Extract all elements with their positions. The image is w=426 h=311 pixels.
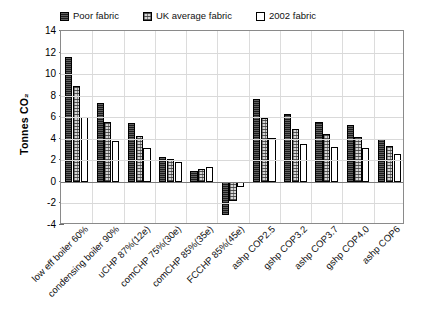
bar-group: [186, 31, 217, 223]
bar: [354, 137, 361, 182]
bar: [65, 57, 72, 182]
bar: [292, 129, 299, 182]
legend-label: 2002 fabric: [269, 11, 316, 21]
gridline: [61, 74, 403, 75]
bar-group: [342, 31, 373, 223]
y-tick-label: -2: [26, 197, 56, 208]
bar-group: [155, 31, 186, 223]
gridline: [61, 160, 403, 161]
gridline: [61, 139, 403, 140]
legend-item-1: Poor fabric: [60, 11, 119, 21]
y-tick-label: 14: [26, 25, 56, 36]
bar: [386, 146, 393, 182]
gridline: [61, 203, 403, 204]
bar: [253, 99, 260, 182]
bar: [323, 134, 330, 181]
bar: [136, 136, 143, 182]
x-axis-labels: low eff boiler 60%condensing boiler 90%u…: [0, 224, 426, 311]
bar: [347, 125, 354, 182]
gridline: [61, 117, 403, 118]
bar-group: [374, 31, 405, 223]
legend-swatch-icon: [60, 12, 69, 21]
gridline: [61, 53, 403, 54]
y-tick-label: 12: [26, 46, 56, 57]
bar: [143, 148, 150, 181]
y-tick-label: 8: [26, 89, 56, 100]
bar: [81, 117, 88, 182]
gridline: [61, 96, 403, 97]
legend-swatch-icon: [143, 12, 152, 21]
bar-group: [124, 31, 155, 223]
bars-container: [61, 31, 403, 223]
bar: [73, 86, 80, 182]
bar: [331, 147, 338, 181]
bar: [315, 122, 322, 182]
legend-item-2: UK average fabric: [143, 11, 232, 21]
bar: [362, 148, 369, 181]
bar-group: [217, 31, 248, 223]
legend-item-3: 2002 fabric: [256, 11, 316, 21]
bar-group: [280, 31, 311, 223]
bar: [229, 182, 236, 201]
y-tick-label: 0: [26, 175, 56, 186]
plot-area: [60, 30, 404, 224]
bar-group: [92, 31, 123, 223]
bar-chart: Poor fabricUK average fabric2002 fabric …: [0, 0, 426, 311]
bar: [300, 144, 307, 182]
bar: [394, 154, 401, 182]
bar: [97, 103, 104, 182]
bar: [175, 162, 182, 182]
bar: [284, 114, 291, 182]
chart-legend: Poor fabricUK average fabric2002 fabric: [60, 8, 400, 24]
y-tick-label: 10: [26, 68, 56, 79]
bar: [128, 123, 135, 182]
bar: [261, 118, 268, 182]
y-tick-label: 6: [26, 111, 56, 122]
legend-swatch-icon: [256, 12, 265, 21]
bar: [167, 159, 174, 182]
bar: [198, 169, 205, 182]
bar-group: [249, 31, 280, 223]
y-tick-label: 4: [26, 132, 56, 143]
bar: [112, 141, 119, 182]
x-tick-label: low eff boiler 60%: [30, 224, 90, 284]
bar: [190, 171, 197, 182]
bar: [104, 122, 111, 182]
zero-axis-line: [61, 182, 403, 183]
bar: [222, 182, 229, 215]
bar-group: [311, 31, 342, 223]
legend-label: Poor fabric: [73, 11, 119, 21]
legend-label: UK average fabric: [156, 11, 232, 21]
bar-group: [61, 31, 92, 223]
bar: [206, 167, 213, 182]
y-tick-label: 2: [26, 154, 56, 165]
